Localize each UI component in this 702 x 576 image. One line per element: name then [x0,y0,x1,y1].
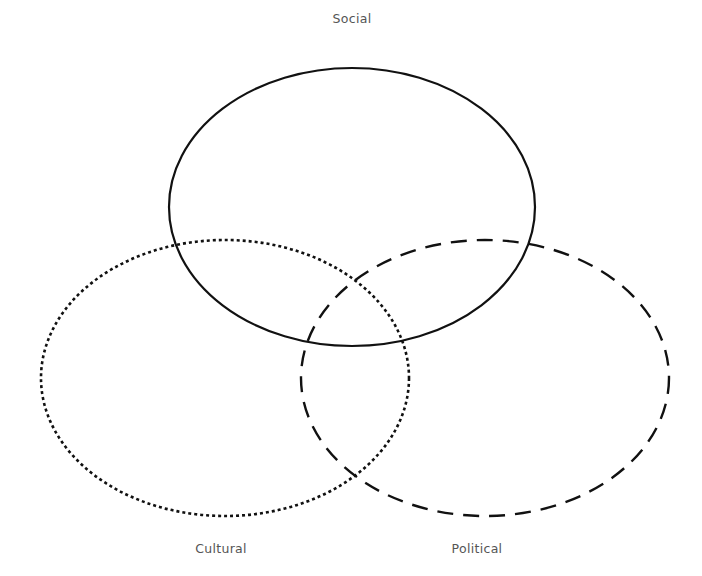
cultural-label: Cultural [195,541,247,556]
social-label: Social [333,11,372,26]
venn-diagram [0,0,702,576]
political-label: Political [452,541,503,556]
social-ellipse [169,68,535,346]
